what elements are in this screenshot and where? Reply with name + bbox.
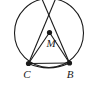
chord-C-B: [29, 63, 70, 64]
point-M-dot: [47, 30, 52, 35]
point-C-dot: [26, 61, 31, 66]
point-B-dot: [67, 60, 72, 65]
label-M: M: [45, 37, 56, 49]
label-B: B: [67, 68, 74, 80]
chord-B-upper-left: [42, 0, 70, 63]
label-C: C: [23, 68, 31, 80]
geometry-figure: M C B: [0, 0, 94, 108]
geometry-canvas: M C B: [0, 0, 94, 108]
